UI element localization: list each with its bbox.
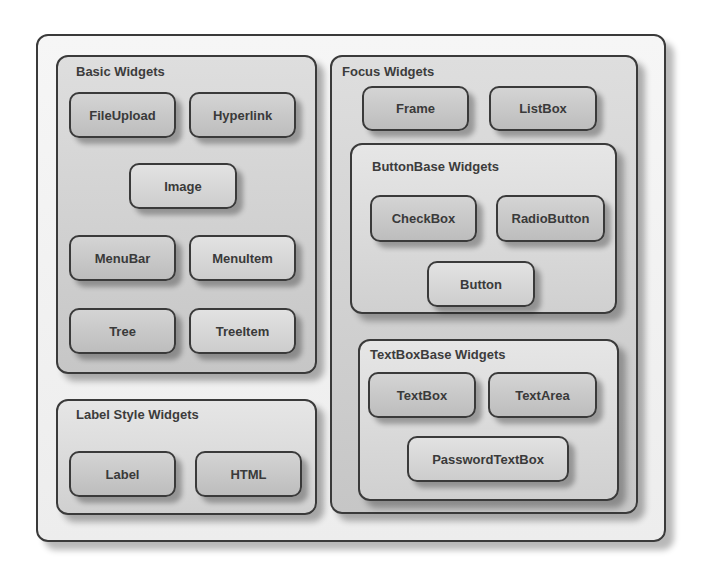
group-title-label-style-widgets: Label Style Widgets — [76, 407, 199, 422]
widget-menuitem[interactable]: MenuItem — [189, 235, 296, 281]
widget-image[interactable]: Image — [129, 163, 237, 209]
widget-label[interactable]: Label — [69, 451, 176, 497]
widget-html[interactable]: HTML — [195, 451, 302, 497]
group-title-textboxbase-widgets: TextBoxBase Widgets — [370, 347, 505, 362]
widget-fileupload[interactable]: FileUpload — [69, 92, 176, 138]
widget-tree[interactable]: Tree — [69, 308, 176, 354]
widget-frame[interactable]: Frame — [362, 86, 469, 131]
widget-textbox[interactable]: TextBox — [368, 372, 476, 418]
widget-hyperlink[interactable]: Hyperlink — [189, 92, 296, 138]
widget-treeitem[interactable]: TreeItem — [189, 308, 296, 354]
widget-menubar[interactable]: MenuBar — [69, 235, 176, 281]
group-title-focus-widgets: Focus Widgets — [342, 64, 434, 79]
widget-listbox[interactable]: ListBox — [489, 86, 597, 131]
group-title-basic-widgets: Basic Widgets — [76, 64, 165, 79]
widget-checkbox[interactable]: CheckBox — [370, 195, 477, 242]
widget-textarea[interactable]: TextArea — [488, 372, 597, 418]
widget-passwordtextbox[interactable]: PasswordTextBox — [407, 436, 569, 482]
group-title-buttonbase-widgets: ButtonBase Widgets — [372, 159, 499, 174]
widget-radiobutton[interactable]: RadioButton — [496, 195, 605, 242]
widget-button[interactable]: Button — [427, 261, 535, 307]
